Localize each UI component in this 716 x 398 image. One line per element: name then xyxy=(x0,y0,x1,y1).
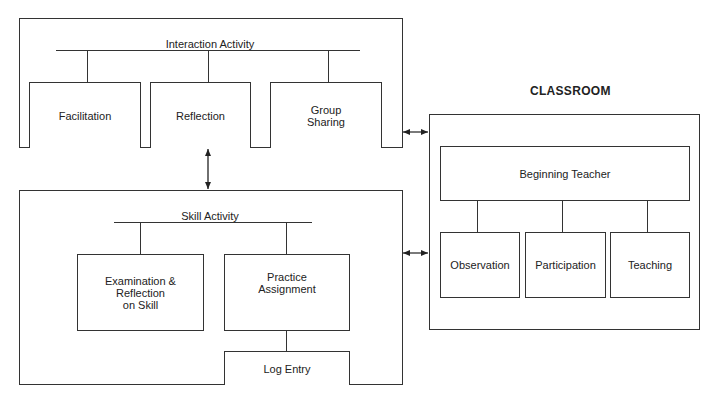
connection-arrows xyxy=(0,0,716,398)
